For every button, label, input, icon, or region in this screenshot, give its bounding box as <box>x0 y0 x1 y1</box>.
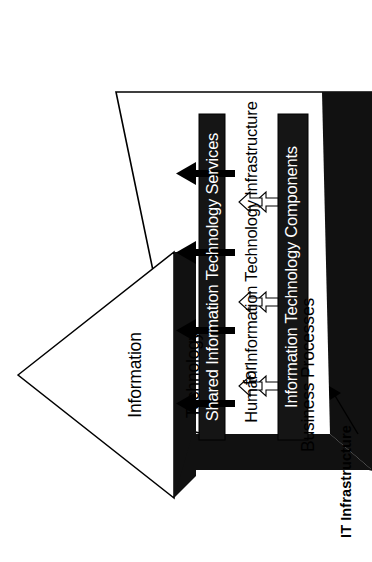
pyramid-title-line-1: Information <box>126 250 145 500</box>
label-it-components: Information Technology Components <box>283 112 300 442</box>
it-infrastructure-callout-label: IT Infrastructure <box>339 425 354 538</box>
it-infrastructure-diagram: Information Technology for Business Proc… <box>0 0 372 562</box>
page-title: Information Technology for Business Proc… <box>88 250 356 500</box>
label-shared-it-services: Shared Information Technology Services <box>204 112 221 442</box>
label-human-it-infrastructure: Human Information Technology Infrastruct… <box>243 82 260 442</box>
pyramid-title-line-4: Business Processes <box>299 250 318 500</box>
figure-rotator: Information Technology for Business Proc… <box>0 0 372 562</box>
pyramid-title-line-2: Technology <box>184 250 203 500</box>
